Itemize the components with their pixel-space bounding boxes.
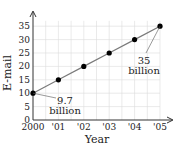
x-tick-label: '01 [51,122,65,132]
annotation-end-unit: billion [128,65,160,76]
data-point-marker [107,50,112,55]
line-chart: 05101520253035 2000'01'02'03'04'05 9.7bi… [0,0,177,146]
annotation-start-unit: billion [49,105,81,116]
x-tick-label: '03 [102,122,116,132]
y-tick-label: 25 [19,48,31,58]
y-axis-label: E-mail [1,55,14,91]
data-point-marker [132,37,137,42]
x-tick-label: 2000 [22,122,45,132]
annotation-leader [33,93,56,98]
y-tick-label: 30 [19,35,31,45]
x-axis-label: Year [84,133,110,146]
x-tick-labels: 2000'01'02'03'04'05 [22,122,168,132]
y-tick-label: 35 [19,21,31,31]
data-point-marker [81,64,86,69]
y-tick-labels: 05101520253035 [19,21,31,125]
x-tick-label: '02 [77,122,91,132]
x-tick-label: '04 [128,122,142,132]
x-tick-label: '05 [153,122,167,132]
y-tick-label: 10 [19,88,31,98]
y-tick-label: 20 [19,61,31,71]
data-point-marker [56,77,61,82]
y-tick-label: 5 [24,102,30,112]
y-tick-label: 15 [19,75,31,85]
